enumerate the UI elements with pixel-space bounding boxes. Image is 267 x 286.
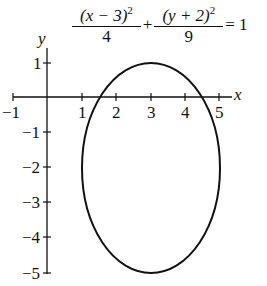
y-tick-label: −5: [22, 265, 40, 282]
x-axis-label: x: [234, 86, 242, 103]
x-tick-label: 3: [147, 104, 156, 121]
x-tick-label: 4: [181, 104, 190, 121]
x-tick-label: 2: [112, 104, 121, 121]
y-tick-label: 1: [33, 55, 42, 72]
equation-rhs: = 1: [225, 15, 247, 35]
y-axis-label: y: [38, 30, 46, 47]
y-tick-label: −1: [22, 124, 40, 141]
y-tick-label: −4: [22, 229, 40, 246]
x-tick-label: 1: [78, 104, 87, 121]
x-tick-label: −1: [2, 104, 20, 121]
equation-term-x: (x − 3)2 4: [78, 4, 135, 47]
equation-plus: +: [143, 15, 153, 35]
x-tick-label: 5: [215, 104, 224, 121]
y-tick-label: −2: [22, 159, 40, 176]
y-tick-label: −3: [22, 194, 40, 211]
ellipse-equation: (x − 3)2 4 + (y + 2)2 9 = 1: [78, 4, 248, 47]
equation-term-y: (y + 2)2 9: [160, 4, 217, 47]
